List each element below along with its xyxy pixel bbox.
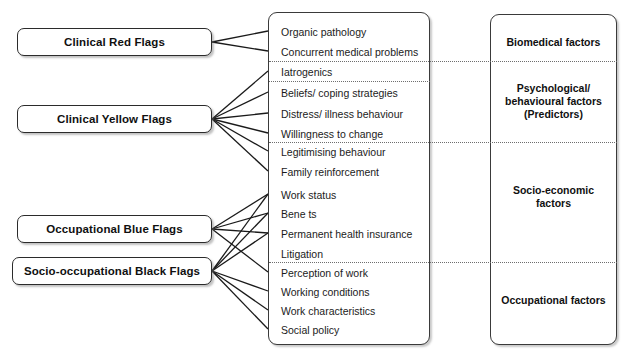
connector-blue-to-work-status bbox=[212, 194, 268, 229]
factor-group-line: factors bbox=[491, 197, 616, 210]
factor-item-willingness-to-change: Willingness to change bbox=[281, 128, 383, 140]
factor-item-iatrogenics: Iatrogenics bbox=[281, 66, 332, 78]
factor-item-perception-of-work: Perception of work bbox=[281, 267, 368, 279]
factor-item-social-policy: Social policy bbox=[281, 324, 339, 336]
separator-sep-biomedical-psychological bbox=[269, 61, 617, 62]
connector-yellow-to-legitimising-behaviour bbox=[212, 119, 268, 151]
factor-group-line: (Predictors) bbox=[491, 108, 616, 121]
connector-black-to-benefits bbox=[212, 213, 268, 271]
factor-item-benefits: Bene ts bbox=[281, 208, 317, 220]
separator-sep-iatrogenics-beliefs bbox=[269, 81, 430, 82]
factor-item-working-conditions: Working conditions bbox=[281, 286, 370, 298]
connector-yellow-to-beliefs-coping-strategies bbox=[212, 92, 268, 119]
factor-group-line: Biomedical factors bbox=[491, 36, 616, 49]
connector-black-to-social-policy bbox=[212, 271, 268, 329]
factor-item-work-characteristics: Work characteristics bbox=[281, 305, 375, 317]
factor-group-biomedical: Biomedical factors bbox=[491, 36, 616, 49]
separator-sep-socio-occupational bbox=[269, 262, 617, 263]
factor-group-line: behavioural factors bbox=[491, 95, 616, 108]
flag-box-black[interactable]: Socio-occupational Black Flags bbox=[12, 257, 212, 285]
factor-item-organic-pathology: Organic pathology bbox=[281, 26, 366, 38]
flags-framework-diagram: Clinical Red Flags Clinical Yellow Flags… bbox=[0, 0, 635, 362]
flag-box-red[interactable]: Clinical Red Flags bbox=[17, 28, 212, 56]
factor-item-permanent-health-insurance: Permanent health insurance bbox=[281, 228, 412, 240]
flag-label-blue: Occupational Blue Flags bbox=[46, 223, 183, 235]
connector-red-to-concurrent-medical-problems bbox=[212, 42, 268, 51]
connector-red-to-organic-pathology bbox=[212, 31, 268, 42]
factor-groups-box: Biomedical factorsPsychological/behaviou… bbox=[490, 14, 617, 345]
connector-blue-to-benefits bbox=[212, 213, 268, 229]
factor-group-psychological: Psychological/behavioural factors(Predic… bbox=[491, 82, 616, 121]
factor-group-socioeconomic: Socio-economicfactors bbox=[491, 184, 616, 210]
separator-sep-psychological-socio bbox=[269, 142, 617, 143]
connector-yellow-to-family-reinforcement bbox=[212, 119, 268, 171]
factor-group-occupational: Occupational factors bbox=[491, 294, 616, 307]
flag-label-yellow: Clinical Yellow Flags bbox=[57, 113, 172, 125]
connector-black-to-permanent-health-insurance bbox=[212, 233, 268, 271]
connector-black-to-work-characteristics bbox=[212, 271, 268, 310]
factor-group-line: Occupational factors bbox=[491, 294, 616, 307]
connector-yellow-to-willingness-to-change bbox=[212, 119, 268, 133]
connector-blue-to-perception-of-work bbox=[212, 229, 268, 272]
flag-label-black: Socio-occupational Black Flags bbox=[24, 265, 200, 277]
factor-item-litigation: Litigation bbox=[281, 248, 323, 260]
flag-box-blue[interactable]: Occupational Blue Flags bbox=[17, 215, 212, 243]
factor-item-work-status: Work status bbox=[281, 189, 336, 201]
factor-item-family-reinforcement: Family reinforcement bbox=[281, 166, 379, 178]
flag-label-red: Clinical Red Flags bbox=[64, 36, 165, 48]
factor-item-distress-illness-behaviour: Distress/ illness behaviour bbox=[281, 108, 403, 120]
factor-item-concurrent-medical-problems: Concurrent medical problems bbox=[281, 46, 418, 58]
flag-box-yellow[interactable]: Clinical Yellow Flags bbox=[17, 105, 212, 133]
connector-black-to-working-conditions bbox=[212, 271, 268, 291]
factor-group-line: Psychological/ bbox=[491, 82, 616, 95]
factor-group-line: Socio-economic bbox=[491, 184, 616, 197]
connector-black-to-work-status bbox=[212, 194, 268, 271]
connector-yellow-to-distress-illness-behaviour bbox=[212, 113, 268, 119]
factor-item-legitimising-behaviour: Legitimising behaviour bbox=[281, 146, 385, 158]
connector-yellow-to-iatrogenics bbox=[212, 71, 268, 119]
factor-item-beliefs-coping-strategies: Beliefs/ coping strategies bbox=[281, 87, 398, 99]
connector-blue-to-permanent-health-insurance bbox=[212, 229, 268, 233]
